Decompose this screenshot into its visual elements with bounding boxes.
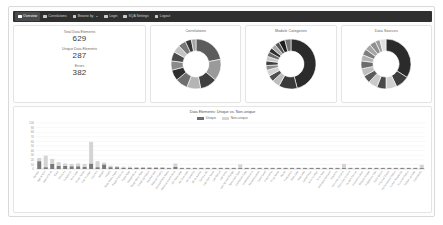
bar-segment-unique[interactable] [167, 168, 171, 169]
bar-segment-unique[interactable] [303, 168, 307, 169]
bar-segment-unique[interactable] [322, 168, 326, 169]
bar-segment-unique[interactable] [219, 168, 223, 169]
bar-chart-plot[interactable]: 0102030405060708090100GenderAge at Visit… [14, 121, 431, 209]
donut-chart-module-categories[interactable] [246, 33, 335, 95]
bar-segment-unique[interactable] [355, 168, 359, 169]
bar-segment-unique[interactable] [147, 168, 151, 169]
bar-segment-non-unique[interactable] [63, 163, 67, 165]
bar-segment-unique[interactable] [400, 168, 404, 169]
nav-item-sqa-settings[interactable]: SQA Settings [120, 12, 151, 21]
bar-segment-unique[interactable] [290, 168, 294, 169]
bar-segment-unique[interactable] [83, 167, 87, 169]
nav-item-logout[interactable]: Logout [152, 12, 173, 21]
legend-label-unique: Unique [206, 116, 216, 120]
bar-segment-unique[interactable] [160, 168, 164, 169]
bar-segment-unique[interactable] [186, 168, 190, 169]
bar-segment-unique[interactable] [44, 167, 48, 169]
bar-segment-unique[interactable] [394, 168, 398, 169]
bar-segment-unique[interactable] [277, 168, 281, 169]
bar-segment-unique[interactable] [407, 168, 411, 169]
bar-segment-non-unique[interactable] [50, 159, 54, 164]
bar-segment-unique[interactable] [115, 167, 119, 169]
bar-segment-non-unique[interactable] [115, 166, 119, 167]
bar-segment-unique[interactable] [251, 168, 255, 169]
x-axis-tick-label: Country [90, 169, 99, 179]
y-axis-tick-label: 50 [31, 144, 35, 148]
bar-segment-unique[interactable] [199, 168, 203, 169]
bar-segment-unique[interactable] [173, 167, 177, 169]
bar-segment-unique[interactable] [89, 163, 93, 169]
nav-item-browse-by[interactable]: Browse by [70, 12, 101, 21]
bar-segment-non-unique[interactable] [238, 164, 242, 168]
bar-segment-unique[interactable] [232, 168, 236, 169]
bar-segment-unique[interactable] [258, 168, 262, 169]
bar-segment-non-unique[interactable] [70, 164, 74, 166]
bar-segment-unique[interactable] [154, 168, 158, 169]
bar-segment-unique[interactable] [361, 168, 365, 169]
bar-segment-non-unique[interactable] [96, 161, 100, 167]
bar-segment-non-unique[interactable] [109, 166, 113, 167]
bar-segment-unique[interactable] [96, 167, 100, 169]
bar-segment-unique[interactable] [335, 168, 339, 169]
bar-segment-unique[interactable] [420, 168, 424, 169]
bar-segment-unique[interactable] [413, 168, 417, 169]
bar-segment-non-unique[interactable] [122, 167, 126, 168]
bar-segment-unique[interactable] [63, 166, 67, 169]
bar-segment-unique[interactable] [284, 168, 288, 169]
bar-segment-non-unique[interactable] [342, 164, 346, 168]
bar-segment-non-unique[interactable] [102, 163, 106, 165]
bar-segment-unique[interactable] [381, 168, 385, 169]
bar-segment-non-unique[interactable] [44, 156, 48, 168]
legend-item-unique[interactable]: Unique [197, 116, 216, 120]
bar-segment-unique[interactable] [348, 168, 352, 169]
bar-segment-non-unique[interactable] [83, 164, 87, 167]
bar-segment-non-unique[interactable] [420, 165, 424, 168]
bar-chart-panel: Data Elements: Unique vs. Non-unique Uni… [13, 106, 432, 213]
bar-segment-unique[interactable] [374, 168, 378, 169]
nav-item-correlations[interactable]: Correlations [40, 12, 69, 21]
bar-segment-unique[interactable] [245, 168, 249, 169]
bar-segment-non-unique[interactable] [37, 158, 41, 161]
bar-segment-unique[interactable] [238, 168, 242, 169]
bar-segment-unique[interactable] [329, 168, 333, 169]
nav-item-label: SQA Settings [129, 12, 149, 21]
bar-segment-unique[interactable] [128, 168, 132, 169]
bar-segment-non-unique[interactable] [76, 163, 80, 166]
bar-segment-unique[interactable] [225, 168, 229, 169]
donut-chart-correlations[interactable] [151, 33, 240, 95]
bar-segment-non-unique[interactable] [57, 162, 61, 166]
donut-chart-data-sources[interactable] [342, 33, 431, 95]
bar-segment-unique[interactable] [212, 168, 216, 169]
bar-segment-unique[interactable] [141, 168, 145, 169]
nav-item-login[interactable]: Login [101, 12, 120, 21]
bar-segment-unique[interactable] [271, 168, 275, 169]
y-axis-tick-label: 60 [31, 140, 35, 144]
bar-segment-unique[interactable] [102, 164, 106, 169]
bar-segment-unique[interactable] [316, 168, 320, 169]
nav-item-overview[interactable]: Overview [15, 12, 40, 21]
bar-segment-unique[interactable] [180, 168, 184, 169]
bar-segment-non-unique[interactable] [173, 163, 177, 166]
bar-segment-unique[interactable] [109, 167, 113, 169]
bar-segment-unique[interactable] [57, 166, 61, 169]
chevron-down-icon [96, 16, 98, 17]
donut-slice[interactable] [196, 39, 221, 62]
bar-segment-unique[interactable] [50, 164, 54, 169]
bar-segment-unique[interactable] [387, 168, 391, 169]
bar-segment-unique[interactable] [134, 168, 138, 169]
bar-segment-unique[interactable] [310, 168, 314, 169]
bar-segment-unique[interactable] [122, 168, 126, 169]
bar-segment-unique[interactable] [206, 168, 210, 169]
legend-item-non-unique[interactable]: Non-unique [222, 116, 248, 120]
bar-segment-non-unique[interactable] [89, 142, 93, 164]
bar-segment-unique[interactable] [37, 161, 41, 169]
donut-panel-module-categories: Module Categories [245, 25, 336, 103]
bar-segment-unique[interactable] [264, 168, 268, 169]
bar-segment-unique[interactable] [70, 166, 74, 169]
bar-segment-unique[interactable] [342, 168, 346, 169]
bar-segment-unique[interactable] [297, 168, 301, 169]
bar-segment-non-unique[interactable] [128, 167, 132, 168]
bar-segment-unique[interactable] [76, 166, 80, 169]
bar-segment-unique[interactable] [368, 168, 372, 169]
bar-segment-unique[interactable] [193, 168, 197, 169]
